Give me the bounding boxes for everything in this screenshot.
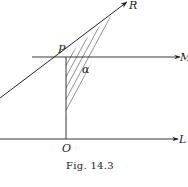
figure-caption: Fig. 14.3 [66,160,114,171]
label-o: O [62,142,71,155]
label-p: P [57,43,66,56]
label-l: L [178,133,186,146]
label-r: R [128,0,137,12]
hatched-region [8,10,138,140]
label-m: M [179,51,188,64]
label-alpha: α [82,63,90,76]
figure-14-3: R P M α O L Fig. 14.3 [0,0,188,187]
